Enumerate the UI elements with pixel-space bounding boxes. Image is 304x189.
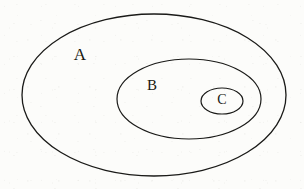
set-b-ellipse[interactable] [117, 59, 261, 139]
set-a-ellipse[interactable] [22, 14, 286, 176]
set-group-c[interactable]: C [201, 88, 243, 114]
set-b-label: B [147, 77, 157, 93]
set-c-label: C [217, 92, 226, 107]
diagram-canvas: A B C [0, 0, 304, 189]
venn-diagram: A B C [0, 0, 304, 189]
set-group-a[interactable]: A [22, 14, 286, 176]
set-a-label: A [74, 45, 87, 64]
set-group-b[interactable]: B [117, 59, 261, 139]
